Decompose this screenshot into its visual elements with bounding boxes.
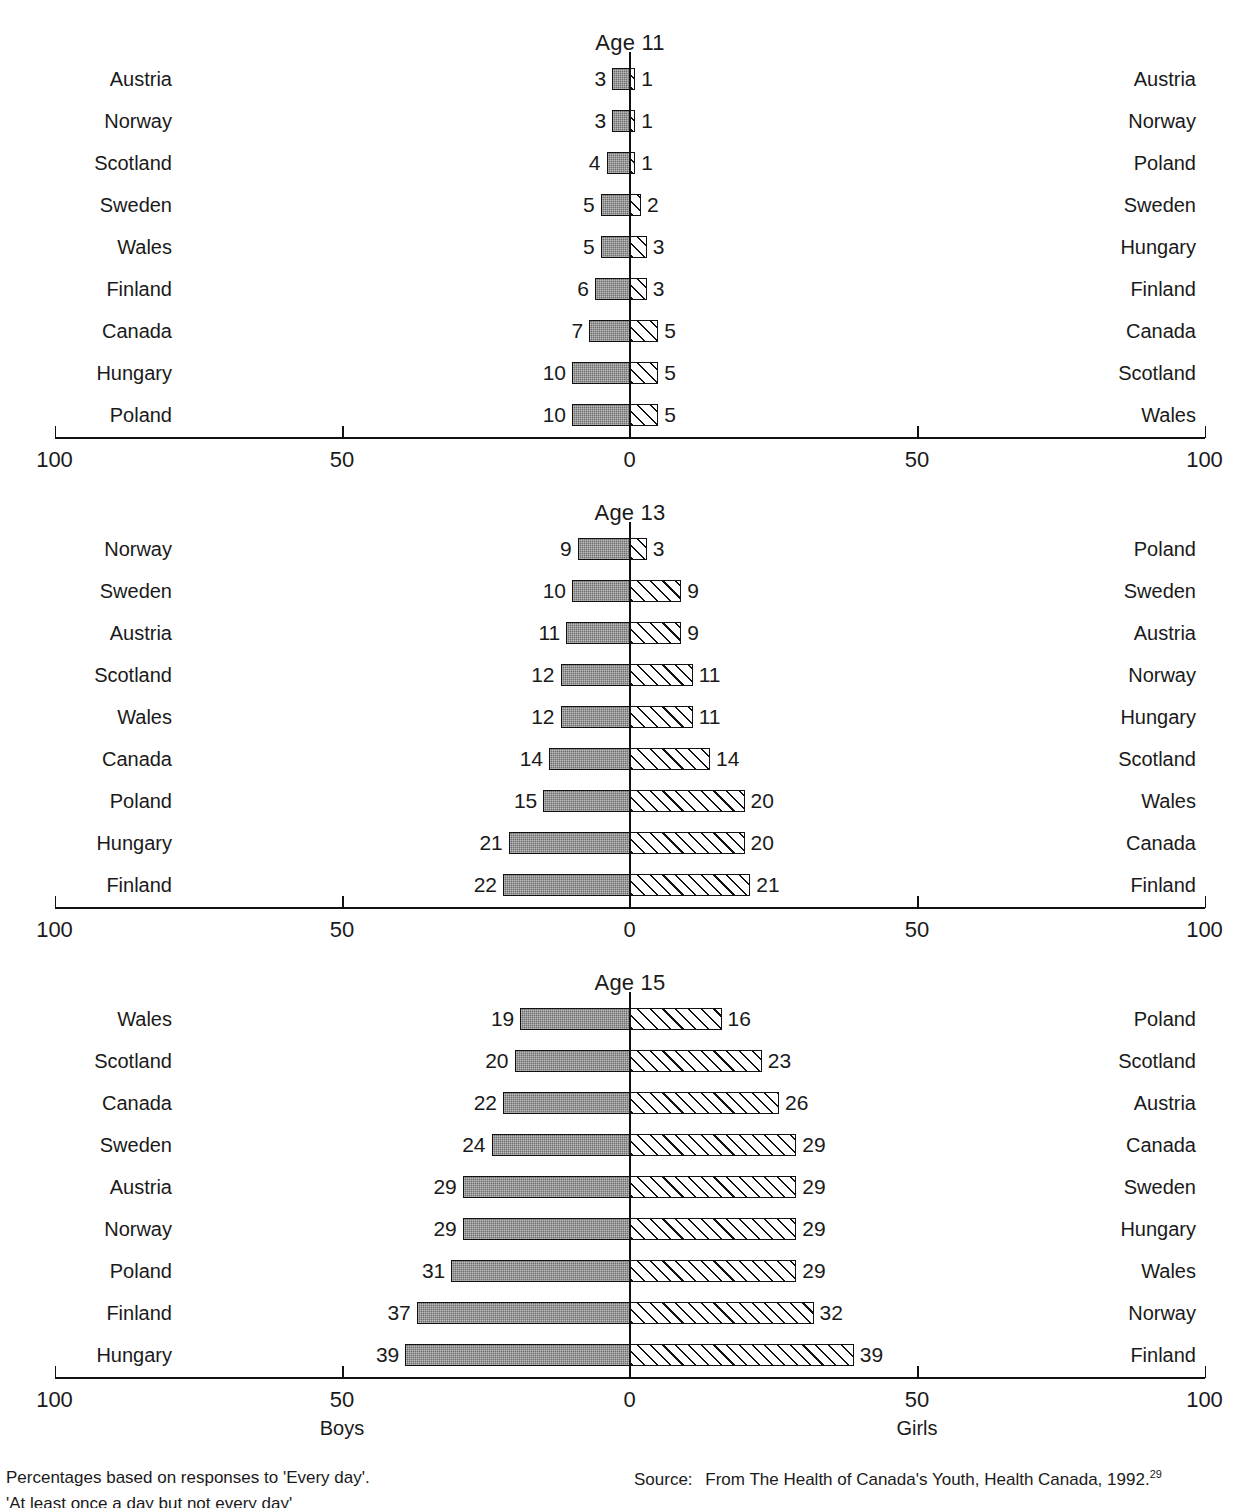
axis-tick-label: 50 — [297, 917, 387, 943]
value-label-boys: 22 — [407, 864, 497, 906]
axis-tick — [1205, 1366, 1207, 1378]
row-label-left: Norway — [0, 100, 172, 142]
axis-tick-label: 100 — [10, 1387, 100, 1413]
row-label-left: Scotland — [0, 1040, 172, 1082]
footnote-left-line2: 'At least once a day but not every day' — [6, 1494, 292, 1508]
axis-tick — [630, 1366, 632, 1378]
value-label-boys: 11 — [470, 612, 560, 654]
zero-axis-line — [629, 992, 631, 1377]
value-label-boys: 4 — [511, 142, 601, 184]
row-label-right: Norway — [1020, 1292, 1196, 1334]
row-label-left: Austria — [0, 1166, 172, 1208]
bar-boys — [607, 152, 630, 174]
axis-tick — [342, 1366, 344, 1378]
chart-row: SwedenSweden52 — [0, 184, 1236, 226]
bar-boys — [578, 538, 630, 560]
chart-row: ScotlandScotland2023 — [0, 1040, 1236, 1082]
bar-boys — [601, 236, 630, 258]
row-label-left: Canada — [0, 1082, 172, 1124]
row-label-right: Finland — [1020, 864, 1196, 906]
value-label-girls: 11 — [699, 696, 789, 738]
axis-tick-label: 50 — [872, 1387, 962, 1413]
value-label-boys: 3 — [516, 58, 606, 100]
chart-row: CanadaCanada75 — [0, 310, 1236, 352]
value-label-boys: 29 — [367, 1208, 457, 1250]
chart-row: SwedenSweden109 — [0, 570, 1236, 612]
row-label-left: Austria — [0, 58, 172, 100]
x-axis: 10050050100 — [0, 437, 1236, 483]
bar-girls — [630, 580, 682, 602]
value-label-girls: 5 — [664, 310, 754, 352]
row-label-left: Sweden — [0, 1124, 172, 1166]
bar-boys — [561, 706, 630, 728]
value-label-girls: 20 — [751, 822, 841, 864]
row-label-left: Wales — [0, 226, 172, 268]
value-label-boys: 15 — [447, 780, 537, 822]
axis-tick — [55, 896, 57, 908]
bar-boys — [520, 1008, 629, 1030]
chart-row: NorwayPoland93 — [0, 528, 1236, 570]
bar-girls — [630, 1260, 797, 1282]
bar-girls — [630, 538, 647, 560]
bar-girls — [630, 832, 745, 854]
bar-boys — [566, 622, 629, 644]
row-label-left: Wales — [0, 998, 172, 1040]
bar-girls — [630, 362, 659, 384]
chart-row: NorwayHungary2929 — [0, 1208, 1236, 1250]
caption-boys: Boys — [262, 1417, 422, 1440]
chart-row: FinlandFinland2221 — [0, 864, 1236, 906]
row-label-right: Sweden — [1020, 1166, 1196, 1208]
row-label-left: Finland — [0, 864, 172, 906]
axis-tick-label: 100 — [1160, 917, 1236, 943]
axis-tick — [630, 896, 632, 908]
value-label-girls: 1 — [641, 142, 731, 184]
axis-tick-label: 0 — [585, 447, 675, 473]
source-superscript: 29 — [1150, 1468, 1162, 1480]
row-label-left: Norway — [0, 528, 172, 570]
value-label-girls: 29 — [802, 1208, 892, 1250]
bar-boys — [601, 194, 630, 216]
row-label-right: Austria — [1020, 1082, 1196, 1124]
value-label-boys: 37 — [321, 1292, 411, 1334]
bar-girls — [630, 874, 751, 896]
value-label-girls: 20 — [751, 780, 841, 822]
figure-title-cropped — [6, 0, 1106, 4]
bar-girls — [630, 622, 682, 644]
row-label-left: Sweden — [0, 184, 172, 226]
value-label-girls: 29 — [802, 1166, 892, 1208]
chart-row: AustriaSweden2929 — [0, 1166, 1236, 1208]
bar-girls — [630, 236, 647, 258]
bar-boys — [417, 1302, 630, 1324]
row-label-left: Hungary — [0, 352, 172, 394]
row-label-left: Canada — [0, 310, 172, 352]
chart-row: WalesPoland1916 — [0, 998, 1236, 1040]
value-label-girls: 29 — [802, 1124, 892, 1166]
row-label-right: Sweden — [1020, 184, 1196, 226]
bar-girls — [630, 664, 693, 686]
footnote-left-line1: Percentages based on responses to 'Every… — [6, 1468, 370, 1488]
bar-boys — [509, 832, 630, 854]
bar-girls — [630, 1134, 797, 1156]
panel-title: Age 15 — [0, 970, 1236, 996]
value-label-girls: 2 — [647, 184, 737, 226]
value-label-boys: 14 — [453, 738, 543, 780]
bar-girls — [630, 1092, 780, 1114]
zero-axis-line — [629, 522, 631, 907]
bar-boys — [463, 1218, 630, 1240]
bar-boys — [549, 748, 630, 770]
chart-row: AustriaAustria31 — [0, 58, 1236, 100]
bar-boys — [595, 278, 630, 300]
chart-row: PolandWales105 — [0, 394, 1236, 436]
axis-tick-label: 100 — [10, 917, 100, 943]
chart-row: NorwayNorway31 — [0, 100, 1236, 142]
value-label-girls: 1 — [641, 100, 731, 142]
footnote-source: Source: From The Health of Canada's Yout… — [634, 1468, 1162, 1490]
chart-row: HungaryFinland3939 — [0, 1334, 1236, 1376]
axis-tick — [55, 426, 57, 438]
value-label-girls: 3 — [653, 528, 743, 570]
value-label-boys: 10 — [476, 352, 566, 394]
bar-girls — [630, 790, 745, 812]
chart-row: CanadaScotland1414 — [0, 738, 1236, 780]
bar-boys — [612, 110, 629, 132]
value-label-boys: 39 — [309, 1334, 399, 1376]
